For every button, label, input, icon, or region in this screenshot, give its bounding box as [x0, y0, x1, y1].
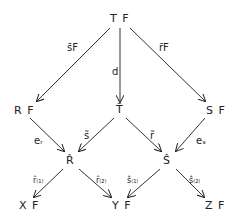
label-shat-1: ŝ₍₁₎: [127, 176, 138, 186]
label-e-r: eᵣ: [34, 136, 43, 146]
label-rhat-2: r̂₍₂₎: [96, 176, 106, 186]
node-zf: Z F: [205, 200, 225, 211]
node-xf: X F: [19, 200, 39, 211]
label-e-s: eₛ: [196, 136, 206, 146]
node-tf: T F: [110, 13, 130, 24]
label-r-tilde: r̃: [150, 131, 154, 141]
label-shat-2: ŝ₍₂₎: [189, 176, 200, 186]
label-s-tilde: s̃: [84, 131, 89, 141]
label-d: d: [112, 67, 118, 77]
node-tbar: T̃: [116, 104, 124, 115]
node-rf: R F: [14, 105, 34, 116]
label-rbar-f: r̄F: [159, 43, 169, 53]
node-rhat: R̂: [66, 155, 75, 166]
node-shat: Ŝ: [163, 155, 171, 166]
label-sbar-f: s̄F: [67, 43, 78, 53]
arrow-tf-rf: [37, 28, 110, 101]
arrow-tf-sf: [130, 28, 205, 101]
arrow-tbar-shat: [126, 118, 161, 151]
node-sf: S F: [206, 105, 226, 116]
label-rhat-1: r̂₍₁₎: [33, 176, 43, 186]
node-yf: Y F: [112, 200, 132, 211]
